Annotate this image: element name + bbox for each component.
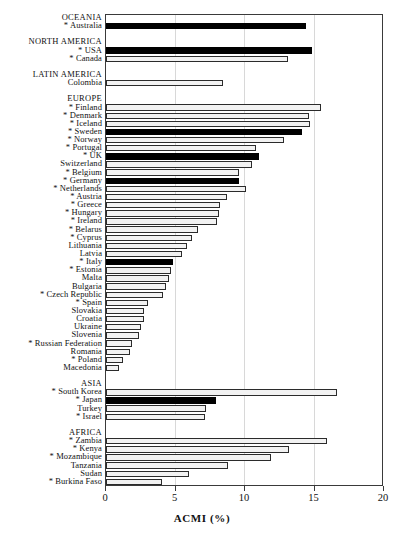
chart-row: Colombia [0,79,404,87]
x-tick-label: 10 [229,492,259,504]
bar [106,113,309,119]
bar [106,389,337,395]
category-label: * Canada [0,54,102,63]
bar [106,210,219,216]
bar [106,178,239,184]
x-tick-label: 15 [299,492,329,504]
chart-row: Macedonia [0,364,404,372]
bar [106,137,284,143]
bar [106,161,252,167]
chart-row: * Australia [0,22,404,30]
bar [106,275,169,281]
chart-row: * Israel [0,413,404,421]
bar [106,365,119,371]
bar [106,47,312,53]
x-tick [175,486,176,491]
bar [106,251,182,257]
bar [106,243,187,249]
chart-row: * Canada [0,55,404,63]
bar [106,349,130,355]
category-label: Macedonia [0,363,102,372]
bar [106,80,223,86]
bar [106,129,302,135]
bar [106,471,189,477]
bar [106,438,327,444]
bar [106,153,259,159]
category-label: * Israel [0,412,102,421]
bar [106,121,310,127]
category-label: * Australia [0,21,102,30]
bar [106,145,256,151]
x-axis-title: ACMI (%) [0,512,404,524]
bar [106,462,228,468]
category-label: * Burkina Faso [0,477,102,486]
x-tick [383,486,384,491]
bar [106,202,220,208]
bar [106,56,288,62]
bar [106,308,144,314]
bar-rows: OCEANIA* AustraliaNORTH AMERICA* USA* Ca… [0,14,404,486]
bar [106,283,166,289]
x-tick [244,486,245,491]
x-tick [105,486,106,491]
bar [106,104,321,110]
bar [106,446,289,452]
bar [106,332,139,338]
x-tick [314,486,315,491]
bar [106,194,227,200]
bar [106,324,141,330]
bar [106,292,163,298]
x-tick-label: 20 [368,492,398,504]
bar [106,235,192,241]
bar [106,259,173,265]
bar [106,186,246,192]
bar [106,316,144,322]
x-tick-label: 0 [90,492,120,504]
bar [106,267,171,273]
bar [106,218,217,224]
bar [106,454,271,460]
bar [106,300,148,306]
bar [106,169,239,175]
bar [106,397,216,403]
bar [106,479,162,485]
bar [106,226,198,232]
bar [106,357,123,363]
bar [106,405,206,411]
bar [106,414,205,420]
acmi-bar-chart: OCEANIA* AustraliaNORTH AMERICA* USA* Ca… [0,0,404,543]
bar [106,340,132,346]
category-label: Colombia [0,78,102,87]
x-tick-label: 5 [160,492,190,504]
bar [106,23,306,29]
chart-row: * Burkina Faso [0,478,404,486]
